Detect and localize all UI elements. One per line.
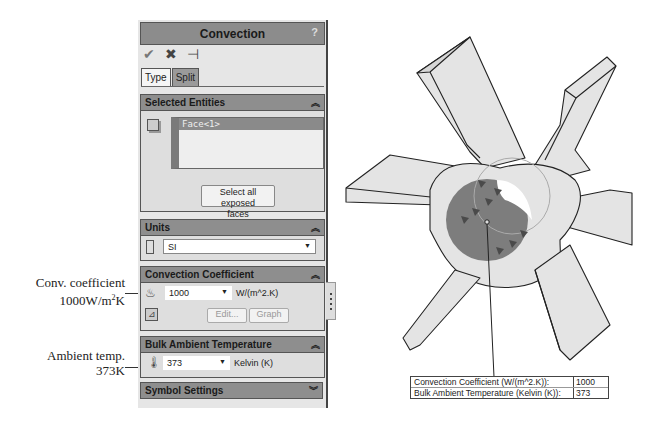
section-title: Convection Coefficient	[145, 269, 254, 280]
callout-label: Bulk Ambient Temperature (Kelvin (K)):	[411, 388, 573, 398]
graphics-viewport[interactable]	[340, 0, 663, 427]
convection-coefficient-input[interactable]: 1000 ▼	[165, 286, 232, 300]
annotation-ambient-temp: Ambient temp. 373K	[47, 348, 125, 378]
units-select-value: SI	[168, 242, 177, 252]
collapse-chevron-icon[interactable]: ︽	[311, 221, 320, 234]
bulk-ambient-temperature-value: 373	[167, 358, 182, 368]
cancel-x-icon[interactable]: ✖	[164, 47, 178, 61]
time-curve-icon[interactable]: ⊿	[145, 308, 158, 321]
face-selection-icon	[147, 119, 159, 131]
blade-lower-right	[535, 245, 610, 360]
select-all-exposed-faces-button[interactable]: Select all exposed faces	[201, 185, 275, 207]
panel-title-bar: Convection ?	[140, 22, 325, 45]
section-title: Selected Entities	[145, 97, 225, 108]
dropdown-arrow-icon: ▼	[304, 242, 311, 249]
convection-property-panel: Convection ? ✔ ✖ ⊣ Type Split Selected E…	[138, 20, 328, 408]
annotation-conv-unit: K	[116, 293, 125, 308]
tab-type[interactable]: Type	[141, 68, 171, 87]
tab-split[interactable]: Split	[172, 68, 199, 87]
annotation-ambient-line1: Ambient temp.	[47, 348, 125, 363]
panel-title: Convection	[200, 27, 265, 41]
section-title: Units	[145, 222, 170, 233]
selected-entities-list[interactable]: Face<1>	[171, 117, 324, 169]
pushpin-icon[interactable]: ⊣	[186, 47, 200, 61]
dropdown-arrow-icon[interactable]: ▼	[219, 358, 226, 365]
section-header-symbol-settings[interactable]: Symbol Settings ︾	[140, 382, 323, 399]
edit-button[interactable]: Edit...	[207, 308, 247, 323]
section-header-bulk-ambient-temperature[interactable]: Bulk Ambient Temperature ︽	[141, 337, 324, 353]
collapse-chevron-icon[interactable]: ︽	[311, 338, 320, 351]
help-icon[interactable]: ?	[311, 26, 318, 38]
ruler-icon	[146, 240, 154, 254]
bulk-ambient-temperature-unit: Kelvin (K)	[234, 358, 273, 368]
collapse-chevron-icon[interactable]: ︽	[311, 96, 320, 109]
annotation-conv-line1: Conv. coefficient	[36, 275, 125, 290]
section-header-convection-coefficient[interactable]: Convection Coefficient ︽	[141, 267, 324, 283]
tabs-divider	[141, 86, 324, 87]
section-bulk-ambient-temperature: Bulk Ambient Temperature ︽ 🌡︎ 373 ▼ Kelv…	[140, 336, 325, 378]
section-units: Units ︽ SI ▼	[140, 219, 325, 261]
dropdown-arrow-icon[interactable]: ▼	[221, 288, 228, 295]
panel-collapse-grip[interactable]	[326, 282, 336, 320]
callout-value: 1000	[573, 377, 608, 387]
list-item-face[interactable]: Face<1>	[179, 118, 323, 130]
expand-chevron-icon[interactable]: ︾	[309, 384, 318, 397]
ok-check-icon[interactable]: ✔	[142, 47, 156, 61]
bulk-ambient-temperature-input[interactable]: 373 ▼	[163, 356, 230, 370]
annotation-conv-coefficient: Conv. coefficient 1000W/m2K	[36, 275, 125, 308]
annotation-conv-leader	[125, 293, 139, 294]
annotation-conv-line2: 1000W/m2K	[36, 290, 125, 308]
section-title: Bulk Ambient Temperature	[145, 339, 272, 350]
section-title: Symbol Settings	[145, 385, 223, 396]
annotation-ambient-line2: 373K	[47, 363, 125, 378]
section-convection-coefficient: Convection Coefficient ︽ ♨ 1000 ▼ W/(m^2…	[140, 266, 325, 331]
collapse-chevron-icon[interactable]: ︽	[311, 268, 320, 281]
annotation-ambient-leader	[125, 367, 139, 368]
section-symbol-settings: Symbol Settings ︾	[140, 382, 323, 398]
blade-lower-left	[403, 270, 480, 350]
units-select[interactable]: SI ▼	[163, 239, 316, 254]
section-header-selected-entities[interactable]: Selected Entities ︽	[141, 95, 324, 111]
panel-tabs: Type Split	[141, 68, 200, 87]
section-selected-entities: Selected Entities ︽ Face<1> Select all e…	[140, 94, 325, 212]
callout-label: Convection Coefficient (W/(m^2.K)):	[411, 377, 573, 387]
thermometer-icon: 🌡︎	[147, 356, 161, 369]
callout-anchor	[485, 220, 489, 224]
convection-coefficient-icon: ♨	[145, 286, 156, 300]
annotation-conv-value: 1000W/m	[60, 293, 112, 308]
callout-row: Bulk Ambient Temperature (Kelvin (K)): 3…	[411, 387, 608, 398]
panel-toolbar: ✔ ✖ ⊣	[142, 47, 200, 61]
callout-value: 373	[573, 388, 608, 398]
convection-coefficient-value: 1000	[169, 288, 189, 298]
load-callout: Convection Coefficient (W/(m^2.K)): 1000…	[410, 376, 609, 399]
section-header-units[interactable]: Units ︽	[141, 220, 324, 236]
button-label-line1: Select all exposed	[202, 187, 274, 209]
convection-coefficient-unit: W/(m^2.K)	[236, 288, 278, 298]
graph-button[interactable]: Graph	[249, 308, 289, 323]
callout-row: Convection Coefficient (W/(m^2.K)): 1000	[411, 377, 608, 387]
